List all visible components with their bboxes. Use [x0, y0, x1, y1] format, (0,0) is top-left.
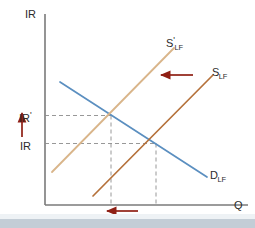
x-axis-label: Q	[234, 196, 243, 212]
guide-lines-new-equilibrium	[45, 116, 111, 206]
curve-label-s-prime-lf: S'LF	[166, 34, 183, 50]
y-tick-label-ir: IR	[20, 137, 31, 153]
y-tick-label-ir-prime: IR'	[19, 109, 32, 125]
y-axis-label: IR	[25, 5, 36, 21]
loanable-funds-diagram: IR Q IR' IR S'LF SLF DLF	[0, 0, 255, 228]
chart-canvas	[0, 0, 255, 228]
supply-curve-s-lf	[93, 75, 213, 196]
curve-label-d-lf: DLF	[210, 166, 226, 182]
curve-label-s-lf: SLF	[212, 63, 228, 79]
guide-lines-original-equilibrium	[45, 144, 156, 206]
demand-curve-d-lf	[60, 82, 207, 177]
footer-strip	[0, 219, 255, 228]
